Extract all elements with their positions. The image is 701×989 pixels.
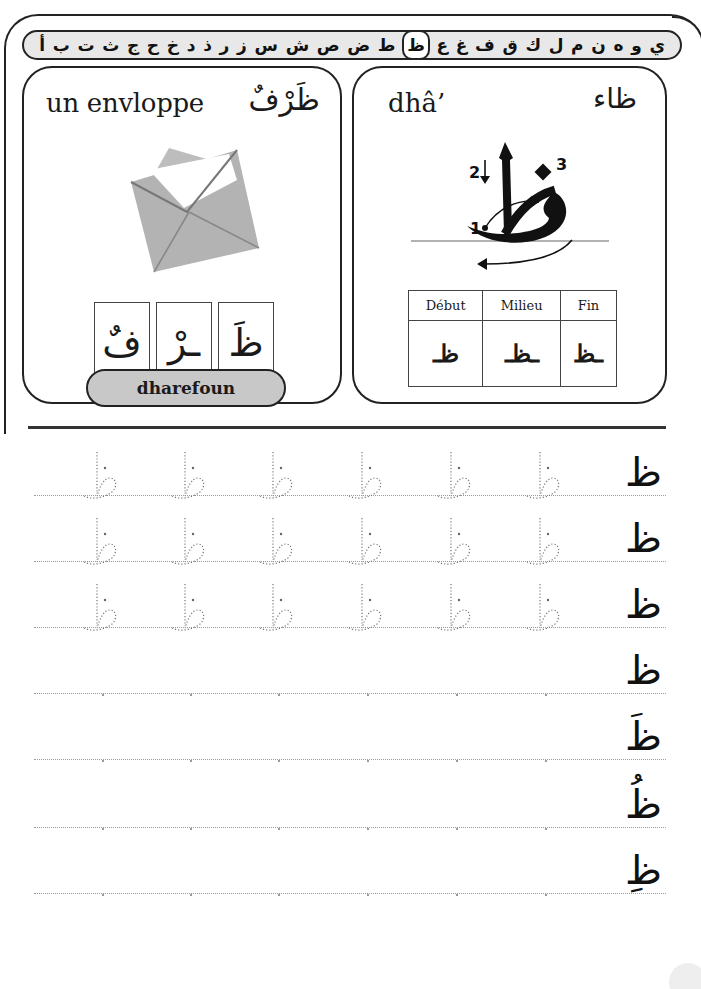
writing-guide-line: [34, 893, 666, 894]
guide-tick: [545, 760, 547, 762]
alphabet-letter[interactable]: ع: [436, 33, 450, 57]
alphabet-letter[interactable]: و: [630, 33, 643, 57]
alphabet-letter[interactable]: ي: [648, 33, 666, 57]
practice-row[interactable]: ظ: [34, 502, 666, 562]
guide-tick: [367, 760, 369, 762]
guide-tick: [278, 894, 280, 896]
page-curl: [669, 963, 701, 989]
model-letter: ظُ: [625, 774, 662, 834]
guide-tick: [190, 894, 192, 896]
practice-row[interactable]: ظِ: [34, 834, 666, 894]
guide-tick: [190, 694, 192, 696]
alphabet-letter[interactable]: أ: [38, 33, 46, 57]
guide-tick: [278, 828, 280, 830]
alphabet-letter[interactable]: غ: [455, 33, 469, 57]
alphabet-letter[interactable]: ر: [219, 33, 231, 57]
alphabet-letter[interactable]: ك: [524, 33, 542, 57]
guide-tick: [278, 760, 280, 762]
trace-letter-icon: [82, 514, 118, 566]
svg-text:3: 3: [556, 155, 567, 174]
trace-letter-icon: [436, 514, 472, 566]
letter-card: dhâ’ ظاء 2 3 1 Début Milieu Fin: [352, 66, 667, 404]
svg-text:2: 2: [469, 163, 480, 182]
guide-tick: [102, 760, 104, 762]
letter-name-french: dhâ’: [388, 88, 445, 118]
word-card: un envloppe ظَرْفٌ فٌ ـرْ ظَ: [22, 66, 342, 404]
guide-tick: [456, 894, 458, 896]
trace-letter-icon: [170, 514, 206, 566]
trace-letter-icon: [525, 448, 561, 500]
form-initial: ظـ: [409, 321, 483, 387]
trace-letter-icon: [347, 514, 383, 566]
model-letter: ظَ: [625, 706, 662, 766]
alphabet-letter[interactable]: د: [186, 33, 197, 57]
trace-letter-icon: [258, 448, 294, 500]
alphabet-letter[interactable]: ف: [474, 33, 496, 57]
trace-letter-icon: [170, 580, 206, 632]
alphabet-letter[interactable]: ح: [146, 33, 160, 57]
trace-letter-icon: [347, 580, 383, 632]
alphabet-letter[interactable]: ش: [285, 33, 310, 57]
guide-tick: [367, 694, 369, 696]
envelope-icon: [109, 140, 264, 280]
alphabet-letter[interactable]: ج: [126, 33, 140, 57]
practice-row[interactable]: ظَ: [34, 700, 666, 760]
practice-row[interactable]: ظ: [34, 634, 666, 694]
alphabet-letter-active[interactable]: ظ: [402, 30, 430, 60]
alphabet-letter[interactable]: ب: [52, 33, 71, 57]
guide-tick: [456, 828, 458, 830]
svg-text:1: 1: [470, 219, 481, 238]
guide-tick: [545, 828, 547, 830]
guide-tick: [456, 694, 458, 696]
alphabet-letter[interactable]: ط: [377, 33, 397, 57]
trace-letter-icon: [525, 580, 561, 632]
trace-letter-icon: [82, 448, 118, 500]
alphabet-letter[interactable]: ص: [316, 33, 341, 57]
model-letter: ظ: [625, 442, 662, 502]
guide-tick: [102, 828, 104, 830]
letter-name-arabic: ظاء: [593, 82, 637, 115]
form-medial: ـظـ: [483, 321, 561, 387]
model-letter: ظِ: [625, 840, 662, 900]
word-french: un envloppe: [46, 88, 204, 118]
alphabet-letter[interactable]: ز: [236, 33, 248, 57]
alphabet-letter[interactable]: س: [253, 33, 278, 57]
trace-letter-icon: [525, 514, 561, 566]
alphabet-letter[interactable]: ض: [346, 33, 371, 57]
alphabet-letter[interactable]: ت: [76, 33, 95, 57]
guide-tick: [367, 894, 369, 896]
trace-letter-icon: [258, 580, 294, 632]
alphabet-letter[interactable]: ق: [502, 33, 519, 57]
stroke-order-diagram: 2 3 1: [409, 130, 614, 280]
model-letter: ظ: [625, 574, 662, 634]
alphabet-letter[interactable]: خ: [166, 33, 180, 57]
alphabet-letter[interactable]: ل: [548, 33, 565, 57]
alphabet-letter[interactable]: ث: [101, 33, 120, 57]
alphabet-bar: أ ب ت ث ج ح خ د ذ ر ز س ش ص ض ط ظ ع غ ف …: [22, 30, 682, 60]
section-divider: [28, 426, 666, 429]
trace-letter-icon: [170, 448, 206, 500]
model-letter: ظ: [625, 508, 662, 568]
alphabet-letter[interactable]: م: [570, 33, 584, 57]
word-arabic: ظَرْفٌ: [248, 82, 320, 117]
writing-guide-line: [34, 827, 666, 828]
trace-letter-icon: [258, 514, 294, 566]
guide-tick: [102, 694, 104, 696]
alphabet-letter[interactable]: ن: [590, 33, 607, 57]
alphabet-letter[interactable]: ه: [612, 33, 624, 57]
guide-tick: [367, 828, 369, 830]
guide-tick: [102, 894, 104, 896]
practice-row[interactable]: ظُ: [34, 768, 666, 828]
form-final: ـظ: [560, 321, 616, 387]
guide-tick: [278, 694, 280, 696]
trace-letter-icon: [436, 580, 472, 632]
guide-tick: [545, 694, 547, 696]
guide-tick: [190, 760, 192, 762]
letter-forms-table: Début Milieu Fin ظـ ـظـ ـظ: [408, 290, 617, 387]
writing-guide-line: [34, 759, 666, 760]
model-letter: ظ: [625, 640, 662, 700]
guide-tick: [545, 894, 547, 896]
practice-row[interactable]: ظ: [34, 568, 666, 628]
practice-row[interactable]: ظ: [34, 436, 666, 496]
alphabet-letter[interactable]: ذ: [202, 33, 213, 57]
